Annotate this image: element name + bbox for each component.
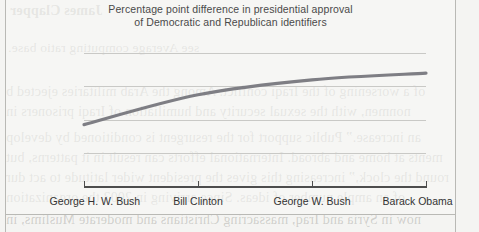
x-tick-3 xyxy=(426,181,427,188)
chart-figure: Percentage point difference in president… xyxy=(6,0,455,214)
plot-area: 0%20%40%60%80% George H. W. BushBill Cli… xyxy=(78,40,426,192)
x-label-0: George H. W. Bush xyxy=(50,195,140,207)
page-frame-right-rule xyxy=(455,0,456,232)
chart-title: Percentage point difference in president… xyxy=(6,3,455,29)
x-label-3: Barack Obama xyxy=(383,195,453,207)
page-frame-bottom-rule xyxy=(5,214,456,215)
screenshot-page: James Clapper see Average computing rati… xyxy=(0,0,479,232)
chart-title-line-1: Percentage point difference in president… xyxy=(6,3,455,16)
series-path xyxy=(84,73,426,124)
x-label-2: George W. Bush xyxy=(273,195,350,207)
approval-gap-line-series xyxy=(78,40,426,192)
x-label-1: Bill Clinton xyxy=(173,195,223,207)
chart-title-line-2: of Democratic and Republican identifiers xyxy=(6,16,455,29)
